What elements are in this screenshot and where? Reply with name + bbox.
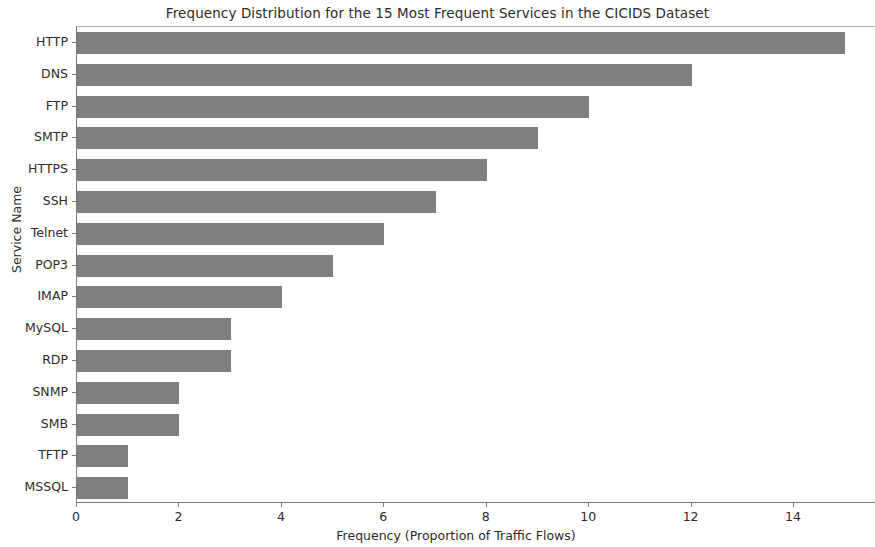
x-tick-mark <box>588 503 589 507</box>
y-tick-label-tftp: TFTP <box>0 448 68 462</box>
plot-area <box>76 26 875 503</box>
x-tick-label-2: 2 <box>158 509 198 524</box>
bar-smb <box>77 414 179 436</box>
y-tick-label-smb: SMB <box>0 417 68 431</box>
bar-ftp <box>77 96 589 118</box>
x-tick-mark <box>76 503 77 507</box>
y-tick-label-dns: DNS <box>0 67 68 81</box>
bar-http <box>77 32 845 54</box>
x-tick-label-0: 0 <box>56 509 96 524</box>
x-tick-mark <box>178 503 179 507</box>
bar-rdp <box>77 350 231 372</box>
bar-dns <box>77 64 692 86</box>
y-tick-label-ssh: SSH <box>0 194 68 208</box>
y-tick-label-mysql: MySQL <box>0 321 68 335</box>
x-tick-mark <box>281 503 282 507</box>
bar-https <box>77 159 487 181</box>
y-tick-label-https: HTTPS <box>0 162 68 176</box>
bar-chart-figure: Frequency Distribution for the 15 Most F… <box>0 0 875 547</box>
x-tick-mark <box>486 503 487 507</box>
y-tick-label-mssql: MSSQL <box>0 480 68 494</box>
y-tick-label-imap: IMAP <box>0 289 68 303</box>
x-tick-mark <box>793 503 794 507</box>
y-tick-label-snmp: SNMP <box>0 385 68 399</box>
bar-tftp <box>77 445 128 467</box>
chart-title: Frequency Distribution for the 15 Most F… <box>0 5 875 21</box>
x-tick-label-12: 12 <box>671 509 711 524</box>
x-tick-label-10: 10 <box>568 509 608 524</box>
x-tick-label-8: 8 <box>466 509 506 524</box>
x-tick-mark <box>383 503 384 507</box>
y-axis-tick-labels: HTTPDNSFTPSMTPHTTPSSSHTelnetPOP3IMAPMySQ… <box>0 26 68 503</box>
bar-mysql <box>77 318 231 340</box>
bar-telnet <box>77 223 384 245</box>
x-tick-label-6: 6 <box>363 509 403 524</box>
y-tick-label-http: HTTP <box>0 35 68 49</box>
bar-pop3 <box>77 255 333 277</box>
y-tick-label-ftp: FTP <box>0 99 68 113</box>
x-axis-label: Frequency (Proportion of Traffic Flows) <box>76 528 836 543</box>
x-tick-mark <box>691 503 692 507</box>
x-axis-tick-labels: 02468101214 <box>0 509 875 525</box>
y-tick-label-smtp: SMTP <box>0 130 68 144</box>
y-tick-label-pop3: POP3 <box>0 258 68 272</box>
bar-mssql <box>77 477 128 499</box>
bar-ssh <box>77 191 436 213</box>
bar-imap <box>77 286 282 308</box>
x-tick-label-14: 14 <box>773 509 813 524</box>
x-tick-label-4: 4 <box>261 509 301 524</box>
y-tick-label-telnet: Telnet <box>0 226 68 240</box>
x-axis-tick-marks <box>76 503 875 508</box>
y-tick-label-rdp: RDP <box>0 353 68 367</box>
bar-smtp <box>77 127 538 149</box>
bars-layer <box>77 27 875 502</box>
bar-snmp <box>77 382 179 404</box>
